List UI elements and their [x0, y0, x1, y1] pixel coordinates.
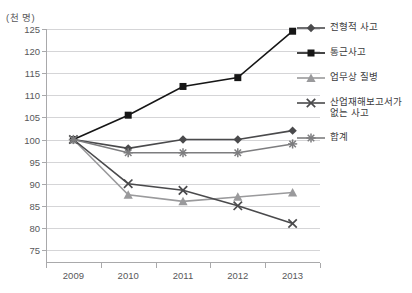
- legend-label: 전형적 사고: [330, 20, 378, 32]
- y-axis-tick-mark: [42, 184, 46, 185]
- data-point-asterisk: [178, 148, 187, 157]
- legend-marker-triangle-icon: [296, 70, 326, 86]
- y-axis-tick-mark: [42, 51, 46, 52]
- data-point-square: [125, 112, 132, 119]
- legend-marker-diamond-icon: [296, 20, 326, 36]
- data-point-square: [308, 50, 315, 57]
- legend-label: 통근사고: [330, 45, 366, 57]
- y-axis-tick-mark: [42, 140, 46, 141]
- x-axis-tick-label: 2010: [98, 270, 158, 281]
- x-axis-tick-mark: [320, 263, 321, 268]
- x-axis-tick-label: 2013: [263, 270, 323, 281]
- y-axis-tick-mark: [42, 250, 46, 251]
- y-axis-tick-label: 105: [0, 112, 40, 123]
- legend-item-1[interactable]: 통근사고: [296, 45, 412, 61]
- legend-marker-x-icon: [296, 95, 326, 111]
- legend-item-3[interactable]: 산업재해보고서가 없는 사고: [296, 95, 412, 121]
- y-axis-tick-label: 110: [0, 90, 40, 101]
- y-axis-tick-label: 90: [0, 178, 40, 189]
- y-axis-tick-mark: [42, 95, 46, 96]
- x-axis-tick-mark: [46, 263, 47, 268]
- x-axis-tick-mark: [265, 263, 266, 268]
- legend-item-4[interactable]: 합계: [296, 130, 412, 146]
- legend-label: 산업재해보고서가 없는 사고: [330, 95, 402, 118]
- y-axis-tick-label: 75: [0, 245, 40, 256]
- y-axis-tick-mark: [42, 162, 46, 163]
- data-point-diamond: [307, 24, 315, 32]
- y-axis-tick-mark: [42, 117, 46, 118]
- data-point-square: [234, 74, 241, 81]
- legend-item-0[interactable]: 전형적 사고: [296, 20, 412, 36]
- data-point-asterisk: [124, 148, 133, 157]
- x-axis-tick-mark: [156, 263, 157, 268]
- data-point-diamond: [234, 135, 242, 143]
- data-point-x: [288, 219, 296, 227]
- chart-legend: 전형적 사고통근사고업무상 질병산업재해보고서가 없는 사고합계: [296, 20, 412, 155]
- data-point-asterisk: [306, 133, 315, 142]
- y-axis-tick-mark: [42, 73, 46, 74]
- y-axis-tick-label: 100: [0, 134, 40, 145]
- data-point-asterisk: [233, 148, 242, 157]
- y-axis-tick-label: 85: [0, 200, 40, 211]
- legend-marker-asterisk-icon: [296, 130, 326, 146]
- legend-item-2[interactable]: 업무상 질병: [296, 70, 412, 86]
- data-point-square: [180, 83, 187, 90]
- legend-marker-square-icon: [296, 45, 326, 61]
- data-point-diamond: [179, 135, 187, 143]
- x-axis-tick-label: 2009: [43, 270, 103, 281]
- y-axis-tick-mark: [42, 228, 46, 229]
- y-axis-tick-label: 80: [0, 222, 40, 233]
- y-axis-tick-mark: [42, 206, 46, 207]
- y-axis-tick-label: 115: [0, 68, 40, 79]
- y-axis-tick-label: 125: [0, 24, 40, 35]
- x-axis-tick-mark: [101, 263, 102, 268]
- legend-label: 업무상 질병: [330, 70, 378, 82]
- data-point-asterisk: [69, 135, 78, 144]
- y-axis-tick-mark: [42, 29, 46, 30]
- series-2: [69, 135, 297, 205]
- x-axis-tick-label: 2011: [153, 270, 213, 281]
- y-axis-tick-label: 120: [0, 46, 40, 57]
- y-axis-tick-label: 95: [0, 156, 40, 167]
- line-chart: (천 명) 전형적 사고통근사고업무상 질병산업재해보고서가 없는 사고합계 1…: [0, 0, 412, 293]
- series-1: [70, 28, 296, 143]
- legend-label: 합계: [330, 130, 348, 142]
- x-axis-tick-mark: [210, 263, 211, 268]
- x-axis-tick-label: 2012: [208, 270, 268, 281]
